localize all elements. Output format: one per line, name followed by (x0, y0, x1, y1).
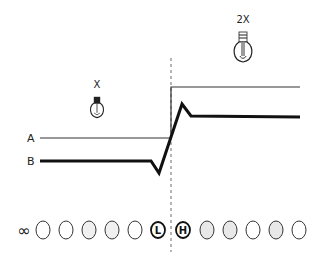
circle-1 (36, 221, 50, 239)
infinity-symbol: ∞ (17, 221, 30, 240)
bulb-2x-caption: 2X (236, 14, 249, 25)
bulb-x-caption: X (94, 79, 101, 90)
diagram-canvas: A B X 2X ∞ L H (0, 0, 323, 267)
circle-row: L H (36, 221, 306, 239)
circle-h: H (176, 222, 190, 238)
svg-text:L: L (155, 225, 162, 236)
line-a (40, 87, 300, 138)
circle-2 (59, 221, 73, 239)
circle-4 (105, 221, 119, 239)
circle-8 (200, 221, 214, 239)
lightbulb-icon (234, 32, 252, 62)
svg-text:H: H (179, 225, 187, 236)
circle-5 (128, 221, 142, 239)
line-a-label: A (27, 132, 35, 145)
circle-9 (223, 221, 237, 239)
circle-10 (246, 221, 260, 239)
circle-l: L (151, 222, 165, 238)
lightbulb-icon (91, 97, 104, 118)
circle-12 (292, 221, 306, 239)
line-b-label: B (27, 155, 35, 168)
circle-11 (269, 221, 283, 239)
circle-3 (82, 221, 96, 239)
